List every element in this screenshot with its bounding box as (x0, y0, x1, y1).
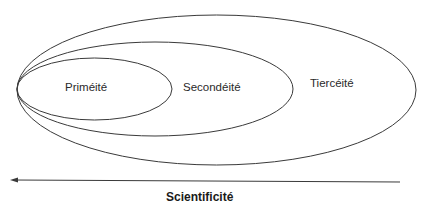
ellipse-middle-secondeite (17, 42, 293, 136)
label-secondeite: Secondéité (183, 81, 241, 93)
scientificite-arrow (10, 178, 400, 183)
label-scientificite: Scientificité (166, 190, 233, 204)
label-tierceite: Tiercéité (310, 77, 354, 89)
label-primeite: Priméité (65, 81, 107, 93)
arrowhead-left-icon (10, 178, 18, 183)
diagram-canvas (0, 0, 428, 211)
